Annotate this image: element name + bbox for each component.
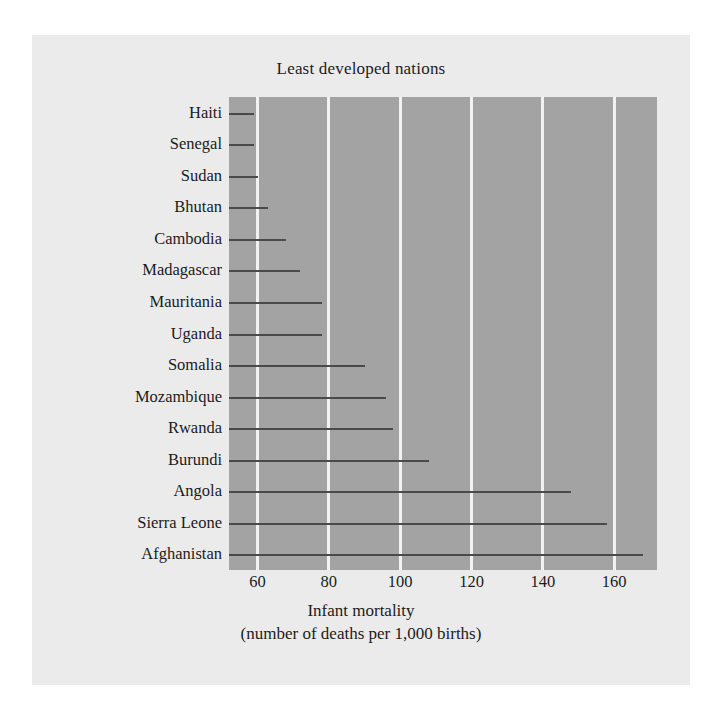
bar-mauritania xyxy=(229,302,322,304)
gridline xyxy=(327,97,330,570)
x-tick-label: 80 xyxy=(321,572,338,592)
y-tick-label: Bhutan xyxy=(32,197,222,217)
chart-card: Least developed nations HaitiSenegalSuda… xyxy=(32,35,690,685)
y-tick-label: Mozambique xyxy=(32,387,222,407)
y-tick-label: Mauritania xyxy=(32,292,222,312)
gridline xyxy=(399,97,402,570)
plot-area xyxy=(229,97,657,570)
y-tick-label: Cambodia xyxy=(32,229,222,249)
x-tick-label: 60 xyxy=(249,572,266,592)
x-axis-tick-labels: 6080100120140160 xyxy=(229,572,657,598)
gridline xyxy=(541,97,544,570)
y-tick-label: Uganda xyxy=(32,324,222,344)
bar-angola xyxy=(229,491,571,493)
gridline xyxy=(470,97,473,570)
bar-senegal xyxy=(229,144,254,146)
bar-mozambique xyxy=(229,397,386,399)
y-tick-label: Angola xyxy=(32,481,222,501)
y-tick-label: Rwanda xyxy=(32,418,222,438)
y-tick-label: Madagascar xyxy=(32,260,222,280)
bar-burundi xyxy=(229,460,429,462)
bar-afghanistan xyxy=(229,554,643,556)
x-axis-title-line1: Infant mortality xyxy=(32,601,690,621)
x-tick-label: 140 xyxy=(530,572,555,592)
chart-title: Least developed nations xyxy=(32,59,690,79)
bar-uganda xyxy=(229,334,322,336)
y-tick-label: Sierra Leone xyxy=(32,513,222,533)
bar-bhutan xyxy=(229,207,268,209)
x-tick-label: 100 xyxy=(388,572,413,592)
y-axis-category-labels: HaitiSenegalSudanBhutanCambodiaMadagasca… xyxy=(32,97,222,570)
figure: Least developed nations HaitiSenegalSuda… xyxy=(0,0,722,715)
gridline xyxy=(613,97,616,570)
bar-rwanda xyxy=(229,428,393,430)
y-tick-label: Somalia xyxy=(32,355,222,375)
y-tick-label: Afghanistan xyxy=(32,544,222,564)
bar-haiti xyxy=(229,113,254,115)
y-tick-label: Sudan xyxy=(32,166,222,186)
y-tick-label: Burundi xyxy=(32,450,222,470)
bar-sudan xyxy=(229,176,258,178)
bar-sierra-leone xyxy=(229,523,607,525)
bar-madagascar xyxy=(229,270,300,272)
y-tick-label: Senegal xyxy=(32,134,222,154)
bar-cambodia xyxy=(229,239,286,241)
x-tick-label: 160 xyxy=(602,572,627,592)
y-tick-label: Haiti xyxy=(32,103,222,123)
bar-somalia xyxy=(229,365,365,367)
x-axis-title: Infant mortality (number of deaths per 1… xyxy=(32,601,690,644)
x-tick-label: 120 xyxy=(459,572,484,592)
x-axis-title-line2: (number of deaths per 1,000 births) xyxy=(32,624,690,644)
